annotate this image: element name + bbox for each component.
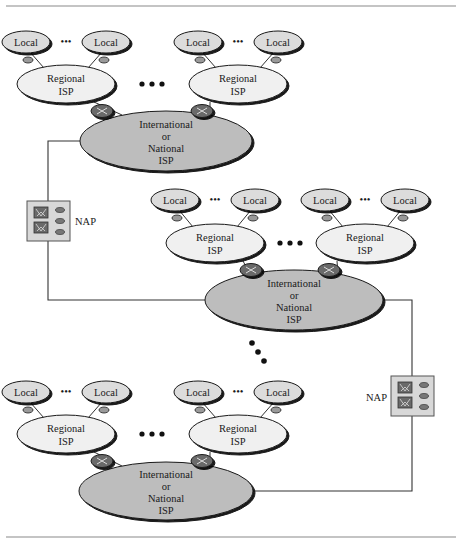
locals-ellipsis: ••• <box>359 194 370 205</box>
local-label: Local <box>14 387 38 398</box>
nap-label: NAP <box>366 392 387 403</box>
local-isp: Local <box>174 381 222 413</box>
router-icon <box>91 105 113 118</box>
local-label: Local <box>266 37 290 48</box>
backbone-isp: InternationalorNationalISP <box>79 462 253 520</box>
router-icon <box>91 455 113 468</box>
regional-label-line1: Regional <box>196 232 234 243</box>
connector-icon <box>99 407 109 413</box>
regional-ellipse <box>166 224 264 262</box>
regionals-ellipsis <box>277 240 302 245</box>
port-icon <box>56 208 65 213</box>
backbone-label-line1: International <box>139 469 193 480</box>
isp-group-middle: InternationalorNationalISPRegionalISPLoc… <box>151 189 429 330</box>
regional-label-line1: Regional <box>346 232 384 243</box>
backbone-label-line4: ISP <box>158 505 173 516</box>
regional-isp: RegionalISP <box>189 65 287 103</box>
regional-label-line2: ISP <box>230 436 245 447</box>
backbone-label-line4: ISP <box>286 314 301 325</box>
locals-ellipsis: ••• <box>60 36 71 47</box>
local-isp: Local <box>174 31 222 63</box>
connector-icon <box>172 215 182 221</box>
local-label: Local <box>94 37 118 48</box>
connector-icon <box>398 215 408 221</box>
port-icon <box>420 394 429 399</box>
connector-icon <box>248 215 258 221</box>
regional-isp: RegionalISP <box>17 415 115 453</box>
connector-icon <box>23 57 33 63</box>
ellipsis-dot <box>249 340 255 346</box>
ellipsis-dot <box>255 349 261 355</box>
backbone-isp: InternationalorNationalISP <box>205 270 383 330</box>
ellipsis-dot <box>149 81 154 86</box>
regional-label-line1: Regional <box>47 423 85 434</box>
regional-label-line2: ISP <box>230 86 245 97</box>
locals-ellipsis: ••• <box>60 386 71 397</box>
port-icon <box>56 219 65 224</box>
connector-icon <box>271 57 281 63</box>
router-icon <box>240 264 262 277</box>
port-icon <box>56 230 65 235</box>
local-label: Local <box>14 37 38 48</box>
backbone-label-line1: International <box>139 119 193 130</box>
connector-icon <box>195 407 205 413</box>
local-label: Local <box>243 195 267 206</box>
connector-icon <box>23 407 33 413</box>
ellipsis-dot <box>139 81 144 86</box>
local-isp: Local <box>254 381 302 413</box>
regional-label-line2: ISP <box>58 436 73 447</box>
regional-label-line2: ISP <box>207 245 222 256</box>
ellipsis-dot <box>139 431 144 436</box>
isp-group-top: InternationalorNationalISPRegionalISPLoc… <box>2 31 302 171</box>
backbone-label-line2: or <box>290 290 299 301</box>
regional-ellipse <box>17 415 115 453</box>
regional-isp: RegionalISP <box>316 224 414 262</box>
connector-icon <box>271 407 281 413</box>
groups-ellipsis <box>249 340 267 364</box>
router-icon <box>191 455 213 468</box>
locals-ellipsis: ••• <box>232 36 243 47</box>
locals-ellipsis: ••• <box>209 194 220 205</box>
backbone-label-line3: National <box>148 143 184 154</box>
backbone-label-line4: ISP <box>158 155 173 166</box>
regional-ellipse <box>17 65 115 103</box>
local-isp: Local <box>231 189 279 221</box>
nap-label: NAP <box>75 216 96 227</box>
regional-ellipse <box>189 65 287 103</box>
regional-isp: RegionalISP <box>189 415 287 453</box>
port-icon <box>420 405 429 410</box>
ellipsis-dot <box>287 240 292 245</box>
ellipsis-dot <box>159 431 164 436</box>
local-isp: Local <box>254 31 302 63</box>
nap-box: NAP <box>27 201 96 241</box>
regionals-ellipsis <box>139 431 164 436</box>
backbone-isp: InternationalorNationalISP <box>80 111 252 171</box>
backbone-label-line2: or <box>162 131 171 142</box>
local-label: Local <box>186 387 210 398</box>
local-isp: Local <box>2 31 50 63</box>
router-icon <box>191 105 213 118</box>
backbone-label-line2: or <box>162 481 171 492</box>
regional-label-line1: Regional <box>47 73 85 84</box>
connector-icon <box>195 57 205 63</box>
backbone-label-line3: National <box>148 493 184 504</box>
regional-label-line1: Regional <box>219 73 257 84</box>
connector-icon <box>322 215 332 221</box>
locals-ellipsis: ••• <box>232 386 243 397</box>
regional-isp: RegionalISP <box>17 65 115 103</box>
isp-groups: InternationalorNationalISPRegionalISPLoc… <box>2 31 429 520</box>
regional-label-line2: ISP <box>357 245 372 256</box>
local-label: Local <box>94 387 118 398</box>
ellipsis-dot <box>149 431 154 436</box>
local-label: Local <box>186 37 210 48</box>
regional-isp: RegionalISP <box>166 224 264 262</box>
local-label: Local <box>393 195 417 206</box>
local-label: Local <box>313 195 337 206</box>
regional-label-line2: ISP <box>58 86 73 97</box>
isp-group-bottom: InternationalorNationalISPRegionalISPLoc… <box>2 381 302 520</box>
backbone-label-line3: National <box>276 302 312 313</box>
local-isp: Local <box>82 381 130 413</box>
local-isp: Local <box>82 31 130 63</box>
ellipsis-dot <box>277 240 282 245</box>
local-label: Local <box>266 387 290 398</box>
